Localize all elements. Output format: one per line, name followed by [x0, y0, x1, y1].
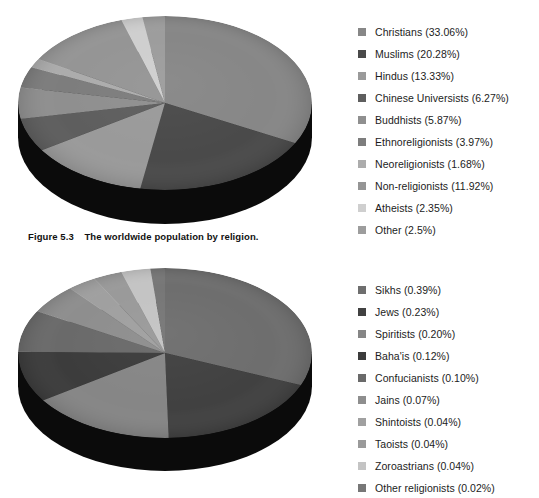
legend-item-label: Neoreligionists (1.68%): [375, 158, 485, 170]
legend-item[interactable]: Sikhs (0.39%): [358, 279, 495, 301]
legend-swatch-icon: [358, 160, 366, 168]
legend-item-label: Jews (0.23%): [375, 306, 439, 318]
pie-top-face: [18, 268, 312, 438]
legend-item[interactable]: Shintoists (0.04%): [358, 411, 495, 433]
legend-item-label: Ethnoreligionists (3.97%): [375, 136, 493, 148]
legend-item-label: Baha'is (0.12%): [375, 350, 450, 362]
legend-item[interactable]: Spiritists (0.20%): [358, 323, 495, 345]
figure-caption-label: Figure 5.3: [28, 231, 74, 242]
pie-chart-minor-religions: [18, 268, 314, 473]
legend-item[interactable]: Ethnoreligionists (3.97%): [358, 131, 509, 153]
legend-swatch-icon: [358, 28, 366, 36]
legend-swatch-icon: [358, 418, 366, 426]
legend-item[interactable]: Other (2.5%): [358, 219, 509, 241]
pie-stage: [18, 16, 314, 226]
legend-item-label: Buddhists (5.87%): [375, 114, 462, 126]
legend-minor-religions: Sikhs (0.39%)Jews (0.23%)Spiritists (0.2…: [358, 279, 495, 498]
legend-swatch-icon: [358, 138, 366, 146]
legend-item[interactable]: Zoroastrians (0.04%): [358, 455, 495, 477]
pie-top-face: [18, 16, 312, 190]
legend-swatch-icon: [358, 72, 366, 80]
legend-item[interactable]: Non-religionists (11.92%): [358, 175, 509, 197]
pie-slices-canvas: [18, 268, 312, 438]
legend-swatch-icon: [358, 50, 366, 58]
pie-slices-canvas: [18, 16, 312, 190]
legend-item-label: Spiritists (0.20%): [375, 328, 455, 340]
legend-item[interactable]: Chinese Universists (6.27%): [358, 87, 509, 109]
pie-stage: [18, 268, 314, 473]
legend-swatch-icon: [358, 204, 366, 212]
legend-item-label: Zoroastrians (0.04%): [375, 460, 474, 472]
legend-item-label: Jains (0.07%): [375, 394, 440, 406]
legend-item-label: Confucianists (0.10%): [375, 372, 479, 384]
legend-item-label: Christians (33.06%): [375, 26, 468, 38]
legend-item-label: Non-religionists (11.92%): [375, 180, 493, 192]
legend-swatch-icon: [358, 286, 366, 294]
legend-item[interactable]: Jews (0.23%): [358, 301, 495, 323]
legend-item[interactable]: Christians (33.06%): [358, 21, 509, 43]
legend-swatch-icon: [358, 440, 366, 448]
legend-item-label: Sikhs (0.39%): [375, 284, 441, 296]
legend-swatch-icon: [358, 226, 366, 234]
legend-item[interactable]: Jains (0.07%): [358, 389, 495, 411]
legend-swatch-icon: [358, 94, 366, 102]
legend-swatch-icon: [358, 330, 366, 338]
legend-item-label: Atheists (2.35%): [375, 202, 453, 214]
legend-item-label: Taoists (0.04%): [375, 438, 448, 450]
legend-swatch-icon: [358, 116, 366, 124]
legend-item-label: Muslims (20.28%): [375, 48, 460, 60]
legend-swatch-icon: [358, 182, 366, 190]
legend-item-label: Chinese Universists (6.27%): [375, 92, 509, 104]
legend-swatch-icon: [358, 352, 366, 360]
legend-major-religions: Christians (33.06%)Muslims (20.28%)Hindu…: [358, 21, 509, 241]
figure-caption: Figure 5.3 The worldwide population by r…: [28, 231, 259, 242]
legend-item[interactable]: Other religionists (0.02%): [358, 477, 495, 498]
legend-item[interactable]: Buddhists (5.87%): [358, 109, 509, 131]
legend-item[interactable]: Neoreligionists (1.68%): [358, 153, 509, 175]
legend-item[interactable]: Confucianists (0.10%): [358, 367, 495, 389]
pie-chart-major-religions: [18, 16, 314, 226]
legend-swatch-icon: [358, 374, 366, 382]
legend-swatch-icon: [358, 484, 366, 492]
legend-item[interactable]: Baha'is (0.12%): [358, 345, 495, 367]
legend-item-label: Shintoists (0.04%): [375, 416, 461, 428]
legend-item-label: Other (2.5%): [375, 224, 436, 236]
legend-item[interactable]: Atheists (2.35%): [358, 197, 509, 219]
legend-swatch-icon: [358, 462, 366, 470]
figure-caption-text: The worldwide population by religion.: [84, 231, 258, 242]
legend-swatch-icon: [358, 308, 366, 316]
legend-item-label: Other religionists (0.02%): [375, 482, 495, 494]
legend-item[interactable]: Taoists (0.04%): [358, 433, 495, 455]
legend-item[interactable]: Muslims (20.28%): [358, 43, 509, 65]
legend-item[interactable]: Hindus (13.33%): [358, 65, 509, 87]
legend-item-label: Hindus (13.33%): [375, 70, 454, 82]
legend-swatch-icon: [358, 396, 366, 404]
